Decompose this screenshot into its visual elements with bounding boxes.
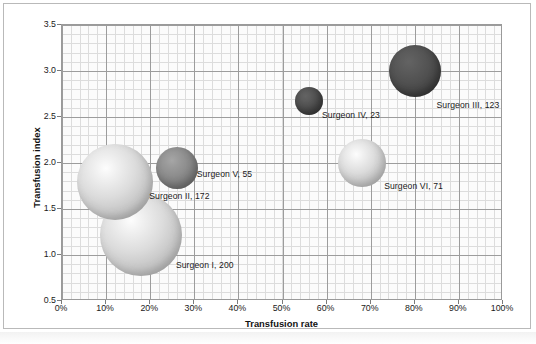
x-tick-label-7: 70% xyxy=(361,303,379,313)
y-tick-label-0: 0.5 xyxy=(28,295,56,305)
y-tick-mark-0 xyxy=(57,300,61,301)
plot-area xyxy=(61,24,502,300)
bubble-label-surgeon-vi: Surgeon VI, 71 xyxy=(384,181,443,191)
bubble-surgeon-ii[interactable] xyxy=(77,144,153,220)
x-tick-label-8: 80% xyxy=(405,303,423,313)
x-tick-mark-3 xyxy=(193,300,194,304)
y-axis-title: Transfusion index xyxy=(31,88,42,248)
x-tick-label-0: 0% xyxy=(55,303,68,313)
gridline-vertical-6 xyxy=(327,25,328,299)
x-axis-title: Transfusion rate xyxy=(61,318,502,329)
x-tick-label-4: 40% xyxy=(229,303,247,313)
bubble-label-surgeon-iii: Surgeon III, 123 xyxy=(437,100,500,110)
x-tick-mark-8 xyxy=(414,300,415,304)
x-tick-label-6: 60% xyxy=(317,303,335,313)
bubble-label-surgeon-v: Surgeon V, 55 xyxy=(197,169,252,179)
figure-frame: 0%10%20%30%40%50%60%70%80%90%100%0.51.01… xyxy=(3,3,531,329)
y-tick-mark-5 xyxy=(57,70,61,71)
x-tick-label-1: 10% xyxy=(96,303,114,313)
y-tick-mark-3 xyxy=(57,162,61,163)
x-tick-label-10: 100% xyxy=(491,303,514,313)
x-tick-mark-2 xyxy=(149,300,150,304)
figure-screenshot: 0%10%20%30%40%50%60%70%80%90%100%0.51.01… xyxy=(0,0,536,344)
y-tick-mark-1 xyxy=(57,254,61,255)
bubble-label-surgeon-ii: Surgeon II, 172 xyxy=(149,191,209,201)
x-tick-label-9: 90% xyxy=(449,303,467,313)
y-tick-label-6: 3.5 xyxy=(28,19,56,29)
x-tick-label-5: 50% xyxy=(273,303,291,313)
bubble-label-surgeon-iv: Surgeon IV, 23 xyxy=(322,110,380,120)
x-tick-mark-4 xyxy=(237,300,238,304)
gridline-horizontal-6 xyxy=(62,25,501,26)
x-tick-mark-5 xyxy=(282,300,283,304)
gridline-vertical-9 xyxy=(459,25,460,299)
y-tick-label-5: 3.0 xyxy=(28,65,56,75)
y-tick-label-1: 1.0 xyxy=(28,249,56,259)
y-tick-mark-4 xyxy=(57,116,61,117)
x-tick-mark-7 xyxy=(370,300,371,304)
bubble-surgeon-v[interactable] xyxy=(156,147,198,189)
y-tick-mark-2 xyxy=(57,208,61,209)
bubble-surgeon-vi[interactable] xyxy=(338,139,386,187)
x-tick-mark-9 xyxy=(458,300,459,304)
x-tick-mark-6 xyxy=(326,300,327,304)
bubble-surgeon-iv[interactable] xyxy=(295,87,323,115)
x-tick-label-2: 20% xyxy=(140,303,158,313)
x-tick-label-3: 30% xyxy=(184,303,202,313)
x-tick-mark-10 xyxy=(502,300,503,304)
bubble-label-surgeon-i: Surgeon I, 200 xyxy=(176,260,234,270)
x-tick-mark-1 xyxy=(105,300,106,304)
page-shadow xyxy=(0,332,536,344)
bubble-surgeon-iii[interactable] xyxy=(389,45,441,97)
x-tick-mark-0 xyxy=(61,300,62,304)
y-tick-mark-6 xyxy=(57,24,61,25)
gridline-horizontal-4 xyxy=(62,117,501,118)
gridline-vertical-5 xyxy=(283,25,284,299)
gridline-vertical-4 xyxy=(238,25,239,299)
gridline-vertical-0 xyxy=(62,25,63,299)
